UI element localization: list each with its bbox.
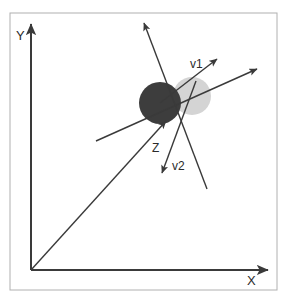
diagram-canvas: Y X Z v1 v2 (0, 0, 287, 302)
vector-long-right (96, 69, 257, 141)
vector-z-label: Z (152, 141, 159, 155)
vector-diagram: Y X Z v1 v2 (0, 0, 287, 302)
vector-v1-label: v1 (190, 57, 203, 71)
vector-z (31, 121, 166, 270)
x-axis-label: X (247, 273, 256, 288)
y-axis-label: Y (16, 28, 25, 43)
vector-v2-label: v2 (172, 159, 185, 173)
